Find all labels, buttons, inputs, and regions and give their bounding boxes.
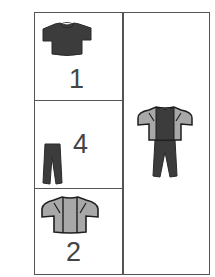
- cell-outfit: [124, 13, 209, 274]
- item-number-1: 1: [69, 66, 84, 93]
- jacket-icon: [40, 195, 100, 235]
- outfit-icon: [136, 106, 194, 178]
- item-number-4: 4: [73, 131, 88, 158]
- cell-jacket: 2: [35, 189, 122, 276]
- cell-trousers: 4: [35, 101, 122, 188]
- clothing-grid: 1 4 2: [34, 12, 210, 275]
- cell-tshirt: 1: [35, 13, 122, 100]
- item-number-2: 2: [66, 239, 81, 266]
- tshirt-icon: [41, 21, 93, 57]
- trousers-icon: [41, 143, 63, 185]
